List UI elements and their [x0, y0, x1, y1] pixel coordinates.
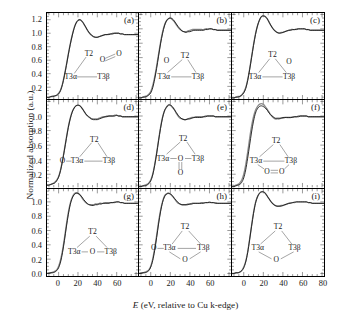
x-tick-label: 40 [279, 279, 287, 288]
panel-i: (i)T2T3αT3βO [232, 189, 325, 277]
molecule-atom-label: T3β [283, 73, 295, 81]
y-tick-label: 0.2 [32, 171, 42, 180]
molecule-atom-label: O [151, 244, 156, 252]
panel-f: (f)T2T3αT3βOO [232, 100, 325, 188]
x-tick-labels-col-3: 020406080 [46, 279, 325, 291]
molecule-atom-label: T2 [90, 136, 98, 144]
y-tick-labels-row-1: 1.21.00.80.60.40.2 [0, 12, 42, 100]
molecule-atom-label: O [286, 58, 291, 66]
panel-label-c: (c) [310, 15, 320, 25]
molecule-atom-label: O [273, 256, 278, 264]
molecule-atom-label: T3α [163, 244, 175, 252]
molecule-atom-label: O [164, 58, 169, 66]
spectrum-curve-secondary [232, 16, 324, 98]
molecule-atom-label: T3α [71, 158, 83, 166]
panel-c: (c)T2T3αT3βO [232, 12, 325, 100]
molecule-atom-label: T2 [274, 223, 282, 231]
molecule-atom-label: T3β [97, 73, 109, 81]
spectrum-curve-primary [47, 20, 138, 98]
panel-h: (h)T2T3αT3βOO [139, 189, 232, 277]
molecule-atom-label: T3β [288, 244, 300, 252]
molecule-atom-label: T2 [268, 52, 276, 60]
molecule-atom-label: O [178, 155, 183, 163]
panel-label-f: (f) [311, 102, 320, 112]
molecule-atom-label: T2 [85, 50, 93, 58]
spectrum-curve-secondary [47, 20, 138, 98]
y-tick-label: 0.8 [32, 42, 42, 51]
panel-label-a: (a) [124, 15, 134, 25]
panel-label-h: (h) [217, 191, 228, 201]
panel-g: (g)T2T3αT3βO [46, 189, 139, 277]
x-axis-title-rest: (eV, relative to Cu k-edge) [138, 300, 238, 310]
molecule-atom-label: T3β [105, 248, 117, 256]
molecule-atom-label: T3β [103, 158, 115, 166]
y-tick-label: 0.0 [32, 270, 42, 279]
molecule-atom-label: T2 [272, 138, 280, 146]
molecule-atom-label: O [279, 168, 284, 176]
molecule-atom-label: T2 [181, 52, 189, 60]
molecule-atom-label: O [264, 168, 269, 176]
molecule-atom-label: T3α [157, 155, 169, 163]
plot-area-e [139, 100, 231, 187]
x-tick-label: 20 [259, 279, 267, 288]
panel-label-i: (i) [312, 191, 321, 201]
molecule-atom-label: T3α [158, 73, 170, 81]
y-tick-labels-row-2: 1.00.80.60.40.2 [0, 100, 42, 188]
spectrum-curve-primary [47, 105, 138, 185]
plot-area-c [232, 13, 324, 99]
molecule-atom-label: O [60, 158, 65, 166]
molecule-atom-label: T3β [197, 244, 209, 252]
panel-grid: (a)T2T3αT3βOO (b)T2T3αT3βO (c)T2T3αT3βO … [46, 12, 325, 277]
molecule-atom-label: T3α [68, 248, 80, 256]
y-tick-label: 0.2 [32, 255, 42, 264]
molecule-atom-label: T3α [252, 244, 264, 252]
molecule-atom-label: O [90, 248, 95, 256]
panel-label-b: (b) [217, 15, 228, 25]
y-tick-label: 0.2 [32, 83, 42, 92]
panel-label-g: (g) [124, 191, 135, 201]
panel-e: (e)T2T3αT3βOO [139, 100, 232, 188]
molecule-atom-label: T3α [249, 73, 261, 81]
y-tick-label: 0.4 [32, 156, 42, 165]
x-tick-label: 80 [319, 279, 327, 288]
panel-d: (d)T2T3αT3βO [46, 100, 139, 188]
molecule-atom-label: T2 [88, 229, 96, 237]
panel-a: (a)T2T3αT3βOO [46, 12, 139, 100]
molecule-atom-label: T3α [64, 73, 76, 81]
y-tick-label: 0.8 [32, 127, 42, 136]
y-tick-label: 0.6 [32, 56, 42, 65]
y-tick-label: 1.0 [32, 112, 42, 121]
x-tick-label: 60 [299, 279, 307, 288]
molecule-atom-label: T2 [181, 223, 189, 231]
panel-label-d: (d) [124, 102, 135, 112]
plot-area-d [47, 100, 138, 187]
panel-b: (b)T2T3αT3βO [139, 12, 232, 100]
xanes-figure: Normalized absorption (a.u.) E (eV, rela… [0, 0, 339, 321]
molecule-atom-label: T3β [192, 155, 204, 163]
molecule-atom-label: O [182, 256, 187, 264]
molecule-atom-label: O [178, 169, 183, 177]
molecule-atom-label: T3β [192, 73, 204, 81]
molecule-atom-label: O [116, 51, 121, 59]
y-tick-label: 1.0 [32, 28, 42, 37]
molecule-atom-label: T3α [250, 158, 262, 166]
y-tick-label: 0.4 [32, 241, 42, 250]
panel-label-e: (e) [217, 102, 227, 112]
y-tick-label: 1.2 [32, 14, 42, 23]
y-tick-label: 0.6 [32, 226, 42, 235]
molecule-atom-label: T2 [179, 135, 187, 143]
x-axis-title: E (eV, relative to Cu k-edge) [46, 300, 325, 310]
y-tick-label: 1.0 [32, 197, 42, 206]
axis-ticks-d [47, 100, 138, 187]
molecule-atom-label: T3β [285, 158, 297, 166]
x-tick-label: 0 [242, 279, 246, 288]
spectrum-curve-primary [139, 105, 231, 187]
y-tick-labels-row-3: 1.00.80.60.40.20.0 [0, 189, 42, 277]
y-tick-label: 0.6 [32, 141, 42, 150]
y-tick-label: 0.4 [32, 70, 42, 79]
y-tick-label: 0.8 [32, 212, 42, 221]
molecule-atom-label: O [100, 57, 105, 65]
